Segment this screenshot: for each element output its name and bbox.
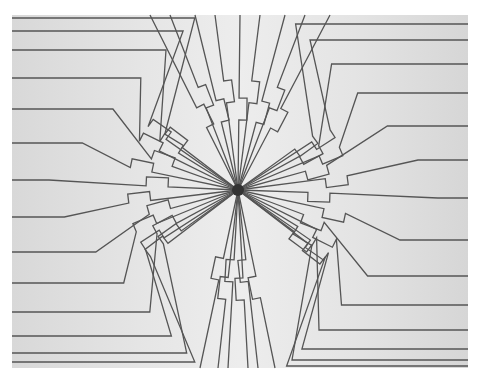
trace-right: [238, 190, 468, 349]
center-hub: [232, 184, 244, 196]
trace-right: [238, 64, 468, 190]
trace-left: [12, 190, 238, 353]
trace-right: [238, 190, 468, 276]
trace-left: [12, 190, 238, 252]
trace-left: [12, 78, 238, 190]
trace-bottom: [200, 190, 238, 368]
image-stage: [0, 0, 485, 381]
trace-top: [238, 15, 305, 190]
trace-right: [238, 126, 468, 190]
trace-right: [238, 190, 468, 305]
trace-right: [238, 190, 468, 202]
trace-bottom: [225, 190, 238, 368]
trace-right: [238, 93, 468, 190]
trace-top: [238, 15, 260, 190]
trace-left: [12, 31, 238, 190]
trace-right: [238, 190, 468, 330]
trace-left: [12, 109, 238, 190]
trace-right: [238, 190, 468, 360]
fanout-traces: [0, 0, 485, 381]
trace-left: [12, 190, 238, 312]
trace-bottom: [238, 190, 275, 368]
trace-top: [215, 15, 238, 190]
trace-left: [12, 50, 238, 190]
trace-left: [12, 190, 238, 336]
